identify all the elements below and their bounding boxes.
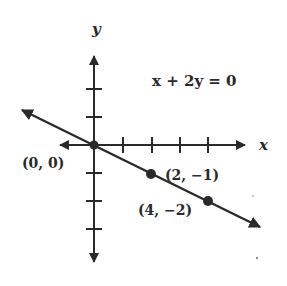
y-axis-label: y [91,20,102,38]
linear-equation-graph: y x x + 2y = 0 (0, 0) (2, −1) (4, −2) [0,0,287,286]
x-axis-label: x [258,136,269,154]
point-label-origin: (0, 0) [22,155,64,171]
point-2-neg1 [146,169,156,179]
point-label-4-neg2: (4, −2) [138,202,192,218]
point-origin [90,141,99,150]
point-label-2-neg1: (2, −1) [165,167,219,183]
equation-label: x + 2y = 0 [152,72,237,90]
point-4-neg2 [203,196,213,206]
scan-speck [252,195,254,197]
scan-speck [256,257,258,259]
